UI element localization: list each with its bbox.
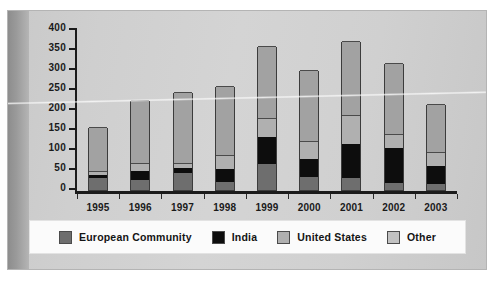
bar-segment-ec-1997	[174, 173, 192, 190]
x-axis-label-1996: 1996	[119, 202, 161, 213]
legend-item-ec[interactable]: European Community	[59, 231, 192, 244]
x-tick-mark	[457, 194, 458, 199]
bar-segment-ec-2002	[385, 183, 403, 190]
bar-slot-2000[interactable]	[288, 28, 330, 191]
bar-segment-us-1997	[174, 163, 192, 168]
y-tick-mark	[69, 188, 75, 190]
y-tick-label: 350	[48, 43, 66, 53]
bar-segment-other-1996	[131, 100, 149, 163]
x-tick-mark	[204, 194, 205, 199]
stacked-bar-2001[interactable]	[341, 42, 361, 191]
x-tick-mark	[373, 194, 374, 199]
stacked-bar-2000[interactable]	[299, 71, 319, 191]
legend-item-india[interactable]: India	[212, 231, 258, 244]
bar-segment-us-2000	[300, 141, 318, 159]
bar-segment-us-1996	[131, 163, 149, 171]
bar-segment-india-1998	[216, 169, 234, 182]
y-tick-label: 50	[54, 163, 66, 173]
bar-slot-2002[interactable]	[373, 28, 415, 191]
stacked-bar-2002[interactable]	[384, 64, 404, 191]
bar-segment-india-1999	[258, 137, 276, 164]
y-tick-mark	[69, 48, 75, 50]
bar-segment-us-2002	[385, 134, 403, 148]
legend-item-us[interactable]: United States	[277, 231, 367, 244]
y-tick-label: 100	[48, 143, 66, 153]
legend-label: Other	[407, 231, 436, 243]
legend-swatch-icon	[59, 231, 72, 244]
x-axis	[75, 191, 457, 194]
stacked-bar-1999[interactable]	[257, 47, 277, 191]
bar-slot-1997[interactable]	[161, 28, 203, 191]
y-tick-label: 150	[48, 123, 66, 133]
bar-segment-india-1995	[89, 175, 107, 178]
legend-item-other[interactable]: Other	[387, 231, 436, 244]
bar-segment-india-2003	[427, 166, 445, 184]
y-tick-label: 250	[48, 83, 66, 93]
bar-segment-us-1999	[258, 118, 276, 137]
legend-swatch-icon	[212, 231, 225, 244]
bar-segment-india-2000	[300, 159, 318, 177]
chart-legend: European CommunityIndiaUnited StatesOthe…	[29, 220, 466, 254]
x-tick-mark	[415, 194, 416, 199]
y-tick-mark	[69, 148, 75, 150]
x-tick-mark	[246, 194, 247, 199]
bar-segment-other-1995	[89, 127, 107, 171]
bar-segment-india-2002	[385, 148, 403, 183]
x-axis-label-1995: 1995	[77, 202, 119, 213]
x-axis-label-1997: 1997	[162, 202, 204, 213]
y-tick-label: 0	[60, 183, 66, 193]
bar-segment-other-2002	[385, 63, 403, 134]
bar-segment-ec-1998	[216, 182, 234, 190]
stacked-bar-1995[interactable]	[88, 128, 108, 191]
legend-swatch-icon	[387, 231, 400, 244]
chart-plot-area: 050100150200250300350400 199519961997199…	[75, 28, 457, 193]
x-tick-mark	[161, 194, 162, 199]
bar-group	[77, 28, 457, 191]
stacked-bar-1998[interactable]	[215, 87, 235, 191]
x-axis-label-2001: 2001	[330, 202, 372, 213]
bar-segment-ec-2001	[342, 178, 360, 190]
y-tick-mark	[69, 88, 75, 90]
x-axis-label-1999: 1999	[246, 202, 288, 213]
stacked-bar-1996[interactable]	[130, 101, 150, 191]
y-tick-mark	[69, 108, 75, 110]
bar-segment-ec-2000	[300, 177, 318, 190]
bar-slot-2001[interactable]	[330, 28, 372, 191]
bar-slot-1995[interactable]	[77, 28, 119, 191]
bar-segment-india-1996	[131, 171, 149, 180]
stacked-bar-2003[interactable]	[426, 105, 446, 191]
y-tick-mark	[69, 128, 75, 130]
bar-segment-ec-2003	[427, 184, 445, 190]
bar-segment-us-1995	[89, 171, 107, 175]
bar-segment-other-1997	[174, 92, 192, 163]
x-tick-mark	[330, 194, 331, 199]
y-tick-label: 400	[48, 23, 66, 33]
scan-gutter-shadow	[8, 11, 29, 269]
y-tick-label: 200	[48, 103, 66, 113]
bar-slot-1998[interactable]	[204, 28, 246, 191]
y-tick-label: 300	[48, 63, 66, 73]
bar-slot-1999[interactable]	[246, 28, 288, 191]
x-tick-mark	[288, 194, 289, 199]
x-axis-label-2003: 2003	[415, 202, 457, 213]
legend-label: India	[232, 231, 258, 243]
bar-slot-2003[interactable]	[415, 28, 457, 191]
bar-segment-us-2003	[427, 152, 445, 167]
y-tick-mark	[69, 68, 75, 70]
x-axis-label-1998: 1998	[204, 202, 246, 213]
screenshot-root: 050100150200250300350400 199519961997199…	[0, 0, 494, 281]
bar-segment-other-2000	[300, 70, 318, 141]
bar-segment-other-1998	[216, 86, 234, 155]
x-axis-label-2000: 2000	[288, 202, 330, 213]
x-axis-label-2002: 2002	[373, 202, 415, 213]
bar-slot-1996[interactable]	[119, 28, 161, 191]
bar-segment-other-2003	[427, 104, 445, 152]
bar-segment-other-1999	[258, 46, 276, 118]
bar-segment-india-2001	[342, 144, 360, 178]
x-tick-mark	[119, 194, 120, 199]
bar-segment-ec-1995	[89, 178, 107, 190]
x-tick-mark	[77, 194, 78, 199]
y-tick-mark	[69, 168, 75, 170]
stacked-bar-1997[interactable]	[173, 93, 193, 191]
legend-label: European Community	[79, 231, 192, 243]
